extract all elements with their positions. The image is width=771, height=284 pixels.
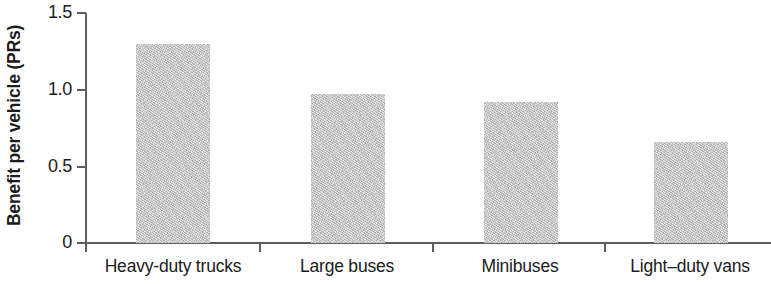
y-tick-label-0: 0 (12, 232, 72, 253)
y-tick-label-0-wrap: 0 (10, 232, 72, 252)
y-tick-label-0_5-wrap: 0.5 (10, 156, 72, 176)
y-tick-label-1_0-wrap: 1.0 (10, 79, 72, 99)
y-tick-1_5 (77, 12, 86, 14)
bar-heavy-duty-trucks (136, 44, 210, 243)
y-tick-label-1_5: 1.5 (12, 2, 72, 23)
y-tick-label-0_5: 0.5 (12, 156, 72, 177)
bar-minibuses (484, 102, 558, 243)
y-axis-line (85, 13, 87, 244)
bar-large-buses (311, 94, 385, 243)
x-tick-boundary-2 (259, 243, 261, 252)
x-category-label-heavy-duty-trucks: Heavy-duty trucks (93, 256, 253, 277)
x-category-label-light-duty-vans: Light–duty vans (611, 256, 769, 277)
plot-area: 1.5 1.0 0.5 0 Heavy-duty trucks Large bu… (0, 0, 771, 284)
y-tick-label-1_5-wrap: 1.5 (10, 2, 72, 22)
y-tick-label-1_0: 1.0 (12, 79, 72, 100)
x-tick-boundary-4 (604, 243, 606, 252)
y-tick-1_0 (77, 89, 86, 91)
bar-light-duty-vans (654, 142, 728, 243)
y-tick-0_5 (77, 166, 86, 168)
x-tick-boundary-3 (432, 243, 434, 252)
x-category-label-large-buses: Large buses (268, 256, 426, 277)
bar-chart: Benefit per vehicle (PRs) 1.5 1.0 0.5 0 (0, 0, 771, 284)
x-category-label-minibuses: Minibuses (441, 256, 599, 277)
x-tick-boundary-1 (85, 243, 87, 252)
